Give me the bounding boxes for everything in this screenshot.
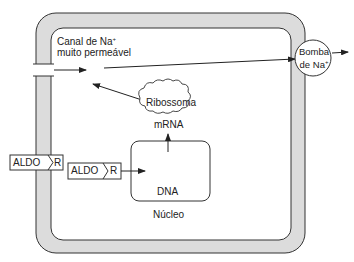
aldo-outer-ligand-label: ALDO [13, 157, 40, 168]
mrna-label: mRNA [154, 119, 183, 130]
sodium-channel [33, 64, 54, 76]
pump-label-line1: Bomba [299, 46, 329, 57]
aldo-inner-ligand-label: ALDO [71, 165, 98, 176]
channel-label-line1: Canal de Na [57, 36, 113, 47]
pump-efflux-arrow [332, 52, 348, 53]
aldo-inner-receptor-label: R [110, 165, 117, 176]
channel-label-sup: + [113, 36, 117, 42]
dna-label: DNA [157, 186, 178, 197]
pump-label-line2: de Na [300, 59, 325, 70]
cell-diagram [0, 0, 354, 262]
aldo-outer-receptor-label: R [54, 157, 61, 168]
channel-label: Canal de Na+ muito permeável [57, 34, 131, 58]
channel-label-line2: muito permeável [57, 47, 131, 58]
ribosome-label: Ribossoma [146, 97, 196, 108]
nucleus-label: Núcleo [153, 209, 184, 220]
pump-label: Bomba de Na+ [299, 46, 329, 70]
pump-label-sup: + [325, 59, 329, 65]
